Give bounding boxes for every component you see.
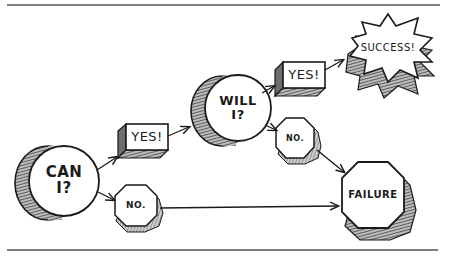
edge-no1-to-failure — [160, 206, 338, 208]
label-no-2: NO. — [286, 135, 304, 143]
flowchart-drawing — [0, 0, 450, 259]
label-will-i: WILL I? — [219, 94, 257, 121]
label-success: SUCCESS! — [361, 43, 416, 54]
flowchart-canvas: CAN I? YES! NO. WILL I? YES! NO. SUCCESS… — [0, 0, 450, 259]
edge-yes1-to-will — [168, 127, 189, 136]
edge-can-to-no1 — [98, 192, 114, 200]
edge-no2-to-failure — [317, 150, 344, 172]
edge-will-to-no2 — [265, 125, 276, 130]
edge-yes2-to-success — [325, 60, 343, 70]
edge-can-to-yes1 — [97, 157, 117, 170]
node-success — [346, 14, 434, 98]
label-failure: FAILURE — [348, 190, 397, 201]
label-can-i: CAN I? — [46, 165, 83, 197]
label-yes-1: YES! — [131, 130, 163, 144]
node-failure — [342, 162, 416, 240]
label-yes-2: YES! — [288, 68, 320, 82]
label-no-1: NO. — [126, 201, 146, 210]
